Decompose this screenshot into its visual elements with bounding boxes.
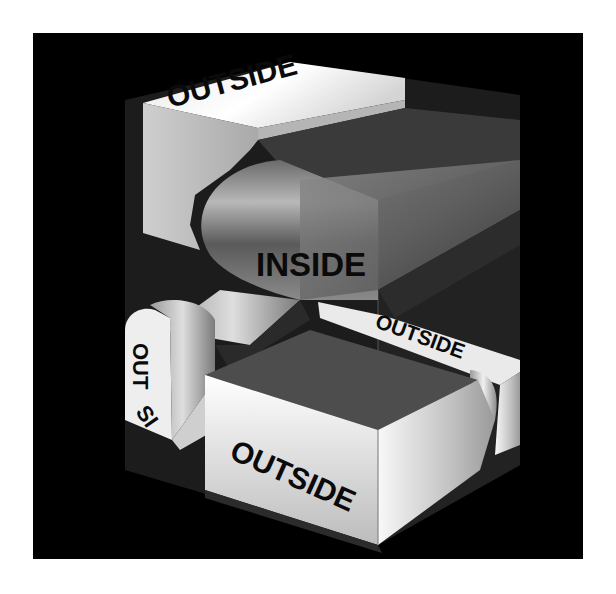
cube-illustration: OUTSIDE INSIDE OUTSIDE OUT SI OUTSIDE [0,0,616,594]
label-out-left: OUT [128,343,153,390]
label-inside-center: INSIDE [256,246,366,283]
figure: OUTSIDE INSIDE OUTSIDE OUT SI OUTSIDE [0,0,616,594]
